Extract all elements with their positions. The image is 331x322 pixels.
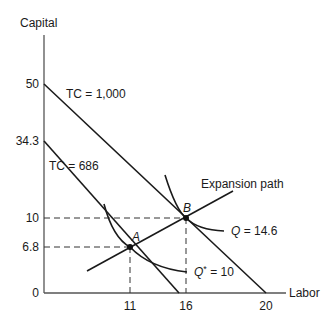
y-tick-34-3: 34.3 — [16, 134, 40, 148]
y-tick-50: 50 — [26, 77, 40, 91]
q-14-6-value: = 14.6 — [240, 224, 277, 238]
point-b-marker — [183, 215, 189, 221]
point-a-label: A — [131, 230, 140, 244]
expansion-path-label: Expansion path — [201, 177, 284, 191]
x-tick-20: 20 — [259, 299, 273, 313]
q-10-label: Q* = 10 — [194, 264, 234, 279]
tc-686-label: TC = 686 — [49, 159, 99, 173]
point-b-label: B — [183, 201, 191, 215]
y-tick-0: 0 — [32, 286, 39, 300]
y-axis-label: Capital — [20, 16, 57, 30]
expansion-path — [87, 191, 233, 271]
chart: Capital Labor 50 34.3 10 6.8 0 11 16 20 … — [0, 0, 331, 322]
isoquant-q-10 — [104, 204, 187, 272]
q-14-6-label: Q = 14.6 — [231, 224, 278, 238]
tc-1000-label: TC = 1,000 — [66, 87, 126, 101]
q-star-symbol: Q — [194, 265, 203, 279]
point-a-marker — [127, 244, 133, 250]
q-10-value: = 10 — [207, 265, 234, 279]
q-symbol: Q — [231, 224, 240, 238]
x-tick-11: 11 — [124, 299, 137, 313]
y-tick-10: 10 — [26, 211, 40, 225]
x-tick-16: 16 — [179, 299, 193, 313]
x-axis-label: Labor — [289, 286, 320, 300]
y-tick-6-8: 6.8 — [22, 240, 39, 254]
